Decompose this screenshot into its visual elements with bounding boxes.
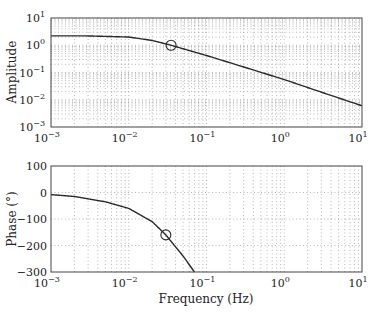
phase-curve	[51, 195, 194, 272]
phase-panel: 1000−100−200−300 10−310−210−1100101 Phas…	[5, 160, 368, 306]
phase-y-tick-labels: 1000−100−200−300	[17, 160, 47, 279]
y-tick-label: 0	[40, 187, 47, 200]
y-tick-label: 100	[26, 37, 45, 52]
x-tick-label: 10−3	[34, 130, 60, 145]
phase-grid	[51, 166, 362, 272]
x-tick-label: 10−2	[112, 130, 138, 145]
amplitude-y-tick-labels: 10110010−110−210−3	[19, 10, 45, 134]
y-tick-label: 101	[26, 10, 45, 25]
x-axis-label: Frequency (Hz)	[159, 292, 254, 306]
x-tick-label: 10−1	[190, 275, 216, 290]
amplitude-y-label: Amplitude	[5, 41, 19, 105]
x-tick-label: 10−3	[34, 275, 60, 290]
phase-y-label: Phase (°)	[5, 191, 19, 246]
amplitude-panel: 10110010−110−210−3 10−310−210−1100101 Am…	[5, 10, 368, 145]
x-tick-label: 10−2	[112, 275, 138, 290]
x-tick-label: 100	[271, 275, 290, 290]
amplitude-x-tick-labels: 10−310−210−1100101	[34, 130, 367, 145]
phase-x-tick-labels: 10−310−210−1100101	[34, 275, 367, 290]
y-tick-label: 100	[26, 160, 47, 173]
x-tick-label: 100	[271, 130, 290, 145]
y-tick-label: 10−2	[19, 92, 45, 107]
amplitude-grid	[51, 18, 362, 127]
amplitude-axes-frame	[51, 18, 362, 127]
x-tick-label: 101	[348, 130, 367, 145]
x-tick-label: 10−1	[190, 130, 216, 145]
y-tick-label: 10−1	[19, 65, 45, 80]
x-tick-label: 101	[348, 275, 367, 290]
y-tick-label: −200	[17, 240, 47, 253]
y-tick-label: −100	[17, 213, 47, 226]
bode-plot: 10110010−110−210−3 10−310−210−1100101 Am…	[0, 0, 381, 313]
